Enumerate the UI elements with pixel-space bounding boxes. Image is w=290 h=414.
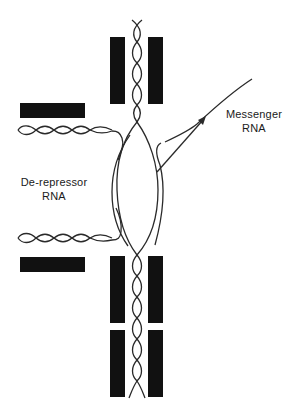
messenger-rna-label-line2: RNA	[218, 121, 290, 135]
derepressor-rna-label: De-repressor RNA	[14, 175, 94, 203]
lower-derepressor-rna-helix	[18, 208, 121, 243]
messenger-rna-label-line1: Messenger	[218, 107, 290, 121]
top-dna-helix	[132, 20, 142, 122]
messenger-rna-arrow	[157, 116, 206, 172]
upper-right-block	[148, 37, 163, 104]
derepressor-rna-label-line2: RNA	[14, 189, 94, 203]
upper-derepressor-rna-helix	[18, 126, 123, 160]
derepressor-diagram	[0, 0, 290, 414]
left-lower-horizontal-block	[20, 257, 85, 272]
lower-left-block-1	[110, 256, 125, 323]
left-upper-horizontal-block	[20, 103, 85, 118]
bottom-dna-helix	[129, 255, 145, 398]
lower-right-block-1	[148, 256, 163, 323]
right-transcript-strand	[155, 143, 163, 245]
lower-right-block-2	[148, 330, 163, 397]
lower-left-block-2	[110, 330, 125, 397]
upper-left-block	[110, 37, 125, 104]
messenger-rna-label: Messenger RNA	[218, 107, 290, 135]
derepressor-rna-label-line1: De-repressor	[14, 175, 94, 189]
